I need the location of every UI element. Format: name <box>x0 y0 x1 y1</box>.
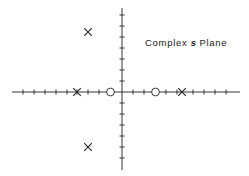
complex-s-plane-figure: Complex s Plane <box>0 0 249 176</box>
zero-right-of-origin <box>152 88 160 96</box>
pole-zero-plot <box>0 0 249 176</box>
imaginary-axis <box>120 8 125 170</box>
zero-left-of-origin <box>107 88 115 96</box>
pole-lower-left-quadrant <box>84 143 92 151</box>
plane-label-suffix: Plane <box>199 37 227 48</box>
real-axis <box>12 90 240 95</box>
plane-label-prefix: Complex <box>145 37 187 48</box>
pole-upper-left-quadrant <box>84 28 92 36</box>
plane-label: Complex s Plane <box>145 38 227 48</box>
